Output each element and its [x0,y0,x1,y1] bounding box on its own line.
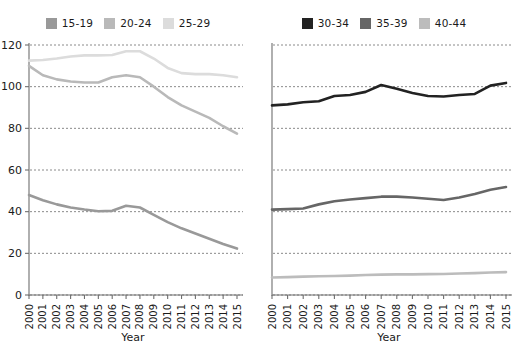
x-tick-label: 2015 [501,304,512,329]
y-tick-label: 80 [8,122,22,135]
y-tick-label: 60 [8,164,22,177]
y-tick-label: 40 [8,205,22,218]
x-tick-label: 2011 [438,304,449,329]
x-tick-label: 2014 [485,304,496,329]
x-tick-label: 2003 [65,304,76,329]
x-tick-label: 2008 [134,304,145,329]
x-tick-label: 2006 [360,304,371,329]
x-tick-label: 2014 [218,304,229,329]
series-line-20-24 [29,66,237,134]
x-axis-title: Year [120,331,145,344]
x-tick-label: 2012 [190,304,201,329]
x-tick-label: 2006 [107,304,118,329]
series-line-35-39 [272,187,506,210]
x-tick-label: 2007 [121,304,132,329]
y-tick-label: 0 [15,289,22,302]
plot-area-right: 2000200120022003200420052006200720082009… [256,0,512,352]
x-axis-title: Year [376,331,401,344]
x-tick-label: 2007 [376,304,387,329]
x-tick-label: 2000 [24,304,35,329]
x-tick-label: 2010 [162,304,173,329]
x-tick-label: 2009 [407,304,418,329]
x-tick-label: 2000 [267,304,278,329]
y-tick-label: 100 [1,80,22,93]
x-tick-label: 2001 [37,304,48,329]
x-tick-label: 2013 [469,304,480,329]
x-tick-label: 2009 [148,304,159,329]
x-tick-label: 2010 [423,304,434,329]
x-tick-label: 2012 [454,304,465,329]
series-line-40-44 [272,272,506,277]
x-tick-label: 2011 [176,304,187,329]
x-tick-label: 2005 [345,304,356,329]
x-tick-label: 2003 [313,304,324,329]
chart-panel-left: 15-1920-2425-29 020406080100120200020012… [0,0,256,352]
series-line-25-29 [29,51,237,77]
x-tick-label: 2015 [232,304,243,329]
x-tick-label: 2008 [391,304,402,329]
x-tick-label: 2004 [329,304,340,329]
plot-area-left: 0204060801001202000200120022003200420052… [0,0,256,352]
x-tick-label: 2013 [204,304,215,329]
x-tick-label: 2002 [51,304,62,329]
chart-figure: 15-1920-2425-29 020406080100120200020012… [0,0,512,352]
y-tick-label: 120 [1,39,22,52]
x-tick-label: 2005 [93,304,104,329]
x-tick-label: 2001 [282,304,293,329]
y-tick-label: 20 [8,247,22,260]
series-line-15-19 [29,195,237,249]
x-tick-label: 2002 [298,304,309,329]
chart-panel-right: 30-3435-3940-44 200020012002200320042005… [256,0,512,352]
x-tick-label: 2004 [79,304,90,329]
